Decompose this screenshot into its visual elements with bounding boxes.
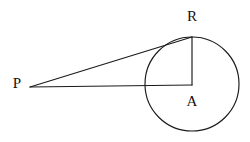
geometry-figure: P R A [0, 0, 250, 142]
point-label-r: R [187, 9, 197, 24]
point-label-a: A [187, 94, 198, 109]
geometry-canvas [0, 0, 250, 142]
point-label-p: P [13, 76, 21, 91]
tangent-line-pr [30, 37, 192, 87]
segment-pa [30, 85, 192, 87]
